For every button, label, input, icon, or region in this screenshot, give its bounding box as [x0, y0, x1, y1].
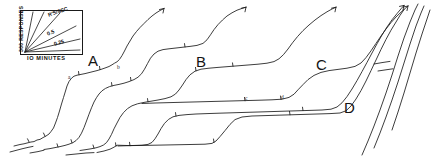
curve-b-tick-3 [112, 83, 113, 86]
curve-label-a: A [88, 52, 99, 69]
marker-d: d [281, 94, 284, 100]
marker-a: a [68, 74, 70, 80]
curve-b-tick-4 [131, 77, 132, 80]
cumulative-record-figure [0, 0, 446, 160]
curve-d-tick-3 [303, 107, 304, 110]
curve-b-tick-5 [185, 44, 186, 47]
curve-a-tick-3 [79, 72, 80, 75]
marker-b: b [117, 64, 120, 70]
flat-baseline-lower-tick-3 [290, 111, 291, 114]
legend-y-axis-label: 300 RESPONSES [18, 6, 24, 52]
curve-c-tick-2 [148, 99, 149, 102]
curve-d-tick-2 [176, 113, 177, 116]
flat-baseline-lower-tick-1 [116, 143, 117, 146]
curve-a-tick-4 [100, 66, 101, 69]
flat-baseline-lower-tick-2 [214, 139, 215, 142]
curve-label-b: B [196, 53, 207, 70]
curve-c-tick-4 [233, 63, 234, 66]
curve-label-c: C [316, 56, 327, 73]
marker-c: c [245, 95, 247, 101]
curve-label-d: D [344, 99, 355, 116]
legend-x-axis-label: IO MINUTES [27, 55, 66, 61]
